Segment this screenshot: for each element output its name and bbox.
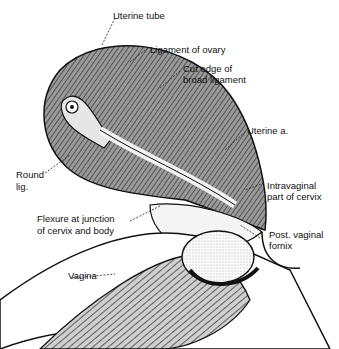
label-intravaginal-line1: Intravaginal bbox=[267, 180, 316, 191]
label-round-lig-line1: Round bbox=[16, 169, 44, 180]
label-cut-edge-line2: broad ligament bbox=[183, 74, 246, 85]
label-flexure-line1: Flexure at junction bbox=[37, 213, 115, 224]
label-vagina: Vagina bbox=[68, 270, 97, 281]
label-uterine-tube: Uterine tube bbox=[113, 10, 165, 21]
label-flexure-line2: of cervix and body bbox=[37, 225, 114, 236]
label-post-fornix-line1: Post. vaginal bbox=[269, 229, 323, 240]
label-intravaginal-line2: part of cervix bbox=[267, 191, 321, 202]
anatomy-figure: Uterine tube Ligament of ovary Cut edge … bbox=[0, 0, 339, 349]
label-round-lig-line2: lig. bbox=[16, 181, 28, 192]
label-ligament-of-ovary: Ligament of ovary bbox=[150, 44, 226, 55]
label-post-fornix-line2: fornix bbox=[269, 240, 292, 251]
label-cut-edge-line1: Cut edge of bbox=[183, 63, 232, 74]
label-uterine-artery: Uterine a. bbox=[247, 125, 288, 136]
